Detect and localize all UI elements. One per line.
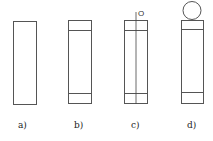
panel-d-rect [182, 21, 204, 104]
panel-d: d) [182, 2, 204, 131]
panel-a-label: a) [18, 120, 27, 130]
panel-b: b) [69, 21, 92, 131]
diagram-canvas: a) b) O c) d) [0, 0, 213, 141]
panel-a: a) [14, 22, 37, 131]
panel-c-label: c) [131, 120, 140, 130]
panel-c: O c) [125, 9, 148, 130]
panel-d-label: d) [187, 120, 196, 130]
panel-a-rect [14, 22, 37, 105]
panel-b-label: b) [74, 120, 83, 130]
panel-d-circle [183, 2, 201, 20]
panel-c-axis-label: O [138, 9, 144, 18]
panel-b-rect [69, 21, 92, 104]
